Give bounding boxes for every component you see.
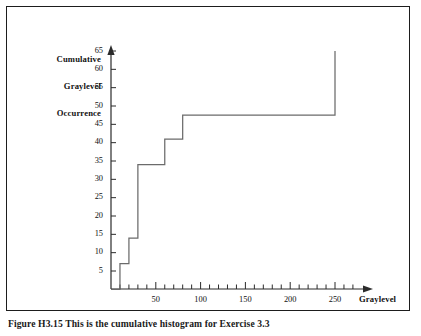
y-tick-label: 60 xyxy=(81,64,103,73)
y-tick-label: 25 xyxy=(81,192,103,201)
y-tick-label: 65 xyxy=(81,46,103,55)
x-tick-label: 150 xyxy=(230,295,260,304)
x-tick-label: 250 xyxy=(320,295,350,304)
y-tick-label: 10 xyxy=(81,247,103,256)
y-tick-label: 30 xyxy=(81,174,103,183)
figure-page: Cumulative Graylevel Occurrence Grayleve… xyxy=(0,0,421,336)
x-tick-label: 100 xyxy=(186,295,216,304)
y-tick-label: 20 xyxy=(81,211,103,220)
y-tick-label: 50 xyxy=(81,101,103,110)
y-tick-label: 15 xyxy=(81,229,103,238)
y-tick-label: 40 xyxy=(81,137,103,146)
y-tick-label: 45 xyxy=(81,119,103,128)
figure-frame: Cumulative Graylevel Occurrence Grayleve… xyxy=(6,6,410,311)
figure-caption: Figure H3.15 This is the cumulative hist… xyxy=(8,318,412,336)
x-tick-label: 200 xyxy=(275,295,305,304)
x-tick-label: 50 xyxy=(141,295,171,304)
plot-ticks xyxy=(111,51,353,289)
y-tick-label: 5 xyxy=(81,266,103,275)
y-axis-title-line-1: Cumulative xyxy=(25,55,101,64)
x-axis-title: Graylevel xyxy=(359,295,396,304)
plot-axes xyxy=(107,45,373,293)
y-axis-title-line-3: Occurrence xyxy=(25,109,101,118)
step-curve xyxy=(111,51,335,289)
y-tick-label: 55 xyxy=(81,82,103,91)
y-tick-label: 35 xyxy=(81,156,103,165)
